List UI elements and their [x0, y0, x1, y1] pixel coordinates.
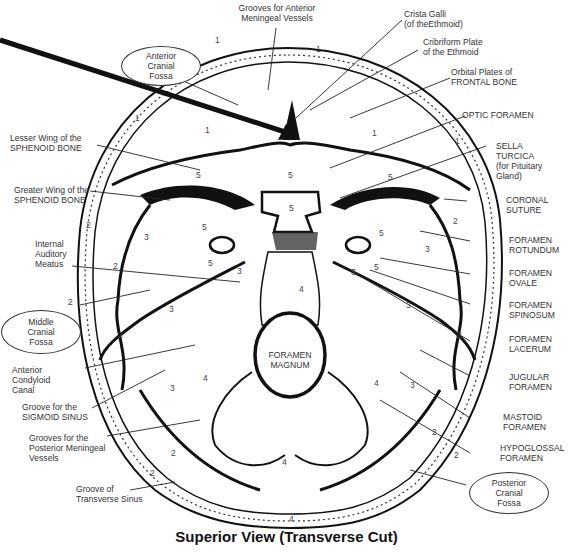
region-number: 2	[454, 450, 459, 460]
label-cribriform-plate: Cribriform Plate of the Ethmoid	[423, 37, 483, 57]
region-number: 5	[374, 262, 379, 272]
region-number: 5	[202, 222, 207, 232]
foramen-magnum-label: FORAMEN MAGNUM	[255, 350, 325, 370]
lesser-wing-ridge	[112, 143, 470, 190]
region-number: 5	[196, 170, 201, 180]
label-crista-galli: Crista Galli (of theEthmoid)	[404, 9, 463, 29]
region-number: 3	[406, 300, 411, 310]
label-hypoglossal-foramen: HYPOGLOSSAL FORAMEN	[500, 443, 564, 463]
region-number: 1	[372, 128, 377, 138]
region-number: 4	[299, 284, 304, 294]
region-number: 3	[410, 380, 415, 390]
label-grooves-anterior-meningeal: Grooves for Anterior Meningeal Vessels	[232, 3, 322, 23]
label-lesser-wing-sphenoid: Lesser Wing of the SPHENOID BONE	[10, 133, 82, 153]
region-number: 2	[453, 216, 458, 226]
label-coronal-suture: CORONAL SUTURE	[506, 195, 549, 215]
region-number: 5	[208, 258, 213, 268]
region-number: 2	[432, 427, 437, 437]
label-optic-foramen: OPTIC FORAMEN	[462, 110, 534, 120]
region-number: 4	[374, 378, 379, 388]
region-number: 4	[282, 457, 287, 467]
middle-cranial-fossa-label: MiddleCranialFossa	[1, 310, 81, 354]
label-orbital-plates: Orbital Plates of FRONTAL BONE	[451, 67, 517, 87]
region-number: 2	[113, 261, 118, 271]
region-number: 3	[144, 232, 149, 242]
label-sigmoid-sinus-groove: Groove for the SIGMOID SINUS	[22, 402, 88, 422]
region-number: 2	[457, 330, 462, 340]
label-mastoid-foramen: MASTOID FORAMEN	[503, 412, 546, 432]
region-number: 5	[379, 228, 384, 238]
region-number: 4	[203, 373, 208, 383]
label-anterior-condyloid-canal: Anterior Condyloid Canal	[12, 365, 50, 395]
region-number: 5	[289, 203, 294, 213]
region-number: 3	[425, 244, 430, 254]
region-number: 2	[118, 330, 123, 340]
label-internal-auditory-meatus: Internal Auditory Meatus	[35, 239, 67, 269]
anterior-cranial-fossa-label: AnteriorCranialFossa	[121, 46, 201, 86]
region-number: 5	[388, 172, 393, 182]
label-jugular-foramen: JUGULAR FORAMEN	[509, 372, 552, 392]
region-number: 2	[171, 448, 176, 458]
region-number: 3	[351, 267, 356, 277]
region-number: 2	[68, 297, 73, 307]
region-number: 3	[169, 304, 174, 314]
region-number: 1	[455, 136, 460, 146]
region-number: 3	[170, 383, 175, 393]
label-transverse-sinus-groove: Groove of Transverse Sinus	[76, 484, 143, 504]
label-foramen-lacerum: FORAMEN LACERUM	[509, 334, 552, 354]
region-number: 2	[86, 220, 91, 230]
label-foramen-spinosum: FORAMEN SPINOSUM	[509, 300, 555, 320]
label-posterior-meningeal-grooves: Grooves for the Posterior Meningeal Vess…	[29, 433, 105, 463]
figure-title: Superior View (Transverse Cut)	[0, 528, 573, 545]
label-greater-wing-sphenoid: Greater Wing of the SPHENOID BONE	[14, 185, 89, 205]
region-number: 1	[215, 35, 220, 45]
label-foramen-rotundum: FORAMEN ROTUNDUM	[509, 235, 559, 255]
region-number: 5	[288, 170, 293, 180]
region-number: 4	[289, 514, 294, 524]
posterior-cranial-fossa-label: PosteriorCranialFossa	[469, 472, 549, 514]
region-number: 1	[316, 44, 321, 54]
label-foramen-ovale: FORAMEN OVALE	[509, 268, 552, 288]
region-number: 2	[150, 468, 155, 478]
region-number: 3	[237, 266, 242, 276]
region-number: 1	[205, 125, 210, 135]
region-number: 1	[135, 113, 140, 123]
label-sella-turcica: SELLA TURCICA (for Pituitary Gland)	[496, 141, 542, 181]
